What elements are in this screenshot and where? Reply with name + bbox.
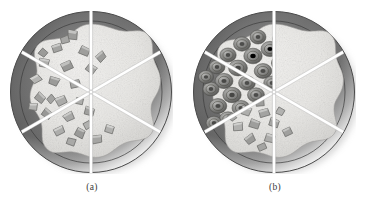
- caption-b: (b): [183, 182, 367, 192]
- panel-a: (a): [0, 0, 184, 205]
- dish-a: [9, 11, 173, 174]
- figure-root: (a): [0, 0, 367, 205]
- dish-b-graphic: [192, 11, 356, 174]
- dish-a-graphic: [9, 11, 173, 174]
- dish-b: [192, 11, 356, 174]
- caption-a: (a): [0, 182, 184, 192]
- panel-b: (b): [183, 0, 367, 205]
